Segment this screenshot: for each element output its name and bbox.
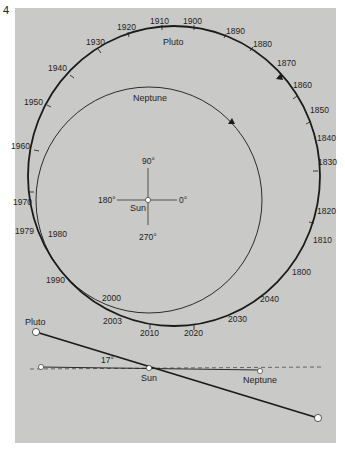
year-label: 1990 [46,275,65,285]
side-neptune-label: Neptune [243,375,277,385]
year-label: 1910 [150,16,169,26]
pluto-orbit-label: Pluto [163,37,184,47]
year-label: 1980 [48,229,67,239]
year-label: 1800 [292,267,311,277]
diagram-panel [15,8,336,443]
angle-0-label: 0° [179,195,187,205]
side-pluto-label: Pluto [25,317,46,327]
year-label: 1810 [313,235,332,245]
year-label: 1820 [317,206,336,216]
year-label: 1840 [317,133,336,143]
year-label: 1890 [226,26,245,36]
year-label: 1930 [86,37,105,47]
angle-270-label: 270° [139,232,157,242]
year-label: 1860 [293,80,312,90]
inclination-label: 17° [101,355,114,365]
year-label: 2000 [102,293,121,303]
year-label: 1830 [318,157,337,167]
angle-90-label: 90° [142,156,155,166]
year-label: 1950 [24,97,43,107]
year-label: 1900 [183,16,202,26]
side-sun-label: Sun [141,373,157,383]
year-label: 2020 [184,328,203,338]
year-label: 1940 [48,63,67,73]
sun-side-marker [146,365,151,370]
neptune-marker-left [38,364,43,369]
year-label: 1970 [13,197,32,207]
sun-label: Sun [130,203,146,213]
pluto-marker-near [32,328,39,335]
neptune-orbit-label: Neptune [133,93,167,103]
year-label: 1960 [11,141,30,151]
year-label: 2040 [260,294,279,304]
year-label: 2010 [140,328,159,338]
pluto-marker-far [314,414,321,421]
year-label: 1880 [253,39,272,49]
year-label: 2003 [103,316,122,326]
sun-marker [145,197,150,202]
year-label: 1870 [277,58,296,68]
year-label: 1920 [117,22,136,32]
year-label: 1979 [15,226,34,236]
year-label: 1850 [310,105,329,115]
neptune-marker-right [257,368,262,373]
orbit-diagram: 1910 1900 1890 1880 1870 1860 1850 1840 … [0,0,345,452]
angle-180-label: 180° [98,195,116,205]
year-label: 2030 [228,314,247,324]
